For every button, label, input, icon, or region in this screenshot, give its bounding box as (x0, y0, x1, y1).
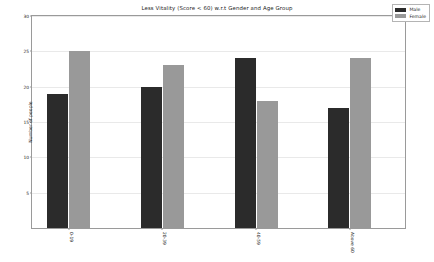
y-tick-label: 10 (23, 155, 29, 160)
legend-label: Female (409, 14, 426, 19)
chart-title: Less Vitality (Score < 60) w.r.t Gender … (0, 5, 434, 11)
bar-male-above-60 (328, 108, 349, 228)
x-tick-label: 40-59 (256, 232, 261, 245)
x-tick-mark (349, 228, 350, 230)
bar-group (328, 16, 371, 228)
bar-group (235, 16, 278, 228)
legend-item-male[interactable]: Male (395, 7, 426, 12)
x-tick-label: 0-19 (68, 232, 73, 242)
bars-layer (32, 16, 405, 228)
y-tick-label: 30 (23, 14, 29, 19)
bar-male-0-19 (47, 94, 68, 228)
legend-swatch-female (395, 14, 406, 18)
bar-female-above-60 (350, 58, 371, 228)
y-tick-label: 5 (26, 190, 29, 195)
chart-legend: MaleFemale (392, 4, 430, 22)
legend-label: Male (409, 7, 420, 12)
legend-swatch-male (395, 8, 406, 12)
y-axis-label: Number of people (28, 101, 33, 142)
bar-male-20-39 (141, 87, 162, 228)
bar-group (47, 16, 90, 228)
bar-female-0-19 (69, 51, 90, 228)
legend-item-female[interactable]: Female (395, 14, 426, 19)
y-tick-label: 20 (23, 84, 29, 89)
x-tick-mark (68, 228, 69, 230)
bar-male-40-59 (235, 58, 256, 228)
y-tick-label: 25 (23, 49, 29, 54)
x-tick-label: Above 60 (349, 232, 354, 253)
bar-female-20-39 (163, 65, 184, 228)
x-tick-mark (162, 228, 163, 230)
x-tick-label: 20-39 (162, 232, 167, 245)
x-tick-mark (256, 228, 257, 230)
bar-female-40-59 (257, 101, 278, 228)
plot-area: 51015202530 0-1920-3940-59Above 60 Numbe… (31, 15, 406, 229)
bar-group (141, 16, 184, 228)
chart-figure: Less Vitality (Score < 60) w.r.t Gender … (0, 0, 434, 262)
